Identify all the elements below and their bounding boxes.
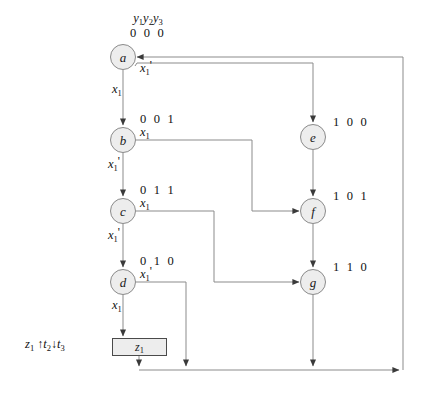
state-node-c[interactable]: c — [110, 198, 136, 224]
state-variable-names: y1y2y3 — [133, 11, 162, 25]
output-timing-annotation: z1 ↑t2↓t3 — [25, 338, 65, 351]
state-node-f-label: f — [311, 204, 315, 217]
state-code-a: 0 0 0 — [130, 26, 166, 41]
state-node-e-label: e — [310, 130, 316, 143]
edge-label-c-x1: x1 — [140, 197, 150, 210]
output-action-label: z1 — [135, 340, 144, 355]
feedback-edge-to-a — [137, 57, 403, 370]
state-code-f: 1 0 1 — [333, 189, 369, 204]
edge-label-a-x1-prime: x1' — [140, 62, 152, 75]
state-node-g[interactable]: g — [300, 269, 326, 295]
state-code-g: 1 1 0 — [333, 260, 369, 275]
edge-label-d-x1-prime: x1' — [140, 268, 152, 281]
edge-label-c-x1-prime: x1' — [108, 229, 120, 242]
edge-label-a-x1: x1 — [112, 83, 122, 96]
state-code-e: 1 0 0 — [333, 115, 369, 130]
state-variable-header: y1y2y3 0 0 0 — [130, 11, 166, 41]
edge-label-b-x1-prime: x1' — [108, 158, 120, 171]
edge-label-d-x1: x1 — [112, 299, 122, 312]
state-node-f[interactable]: f — [300, 198, 326, 224]
state-node-b-label: b — [120, 133, 127, 146]
edge-b-to-f — [136, 140, 299, 211]
state-node-a[interactable]: a — [110, 44, 136, 70]
state-node-d-label: d — [120, 275, 127, 288]
edge-label-b-x1: x1 — [140, 126, 150, 139]
state-node-b[interactable]: b — [110, 127, 136, 153]
edge-c-to-g — [136, 211, 299, 282]
output-action-box[interactable]: z1 — [112, 338, 167, 356]
state-node-a-label: a — [120, 50, 127, 63]
state-node-c-label: c — [120, 204, 126, 217]
state-transition-diagram: y1y2y3 0 0 0 a b c d e f g 0 0 1 0 1 1 0… — [0, 0, 423, 394]
state-node-g-label: g — [310, 275, 317, 288]
state-node-d[interactable]: d — [110, 269, 136, 295]
state-node-e[interactable]: e — [300, 124, 326, 150]
